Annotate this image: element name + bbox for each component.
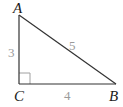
side-label-ab: 5 <box>69 38 76 53</box>
right-triangle-diagram: A B C 3 4 5 <box>0 0 123 107</box>
side-label-cb: 4 <box>64 88 71 103</box>
right-angle-marker <box>19 73 30 84</box>
vertex-label-c: C <box>14 88 25 104</box>
vertex-label-a: A <box>12 0 23 16</box>
side-label-ac: 3 <box>8 45 15 60</box>
side-ab <box>19 15 116 84</box>
vertex-label-b: B <box>109 88 118 104</box>
